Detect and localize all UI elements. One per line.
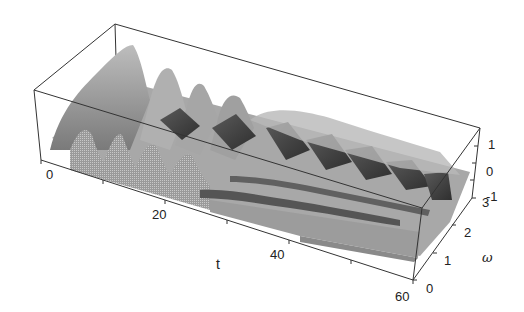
z-tick-1: 1 <box>488 138 495 151</box>
t-tick-40: 40 <box>270 248 284 261</box>
omega-tick-2: 2 <box>464 226 471 239</box>
omega-tick-0: 0 <box>426 282 433 295</box>
t-tick-0: 0 <box>46 168 53 181</box>
omega-tick-1: 1 <box>444 254 451 267</box>
omega-axis-label: ω <box>482 250 493 265</box>
z-axis-ticks <box>470 146 478 180</box>
t-tick-60: 60 <box>395 290 409 303</box>
z-tick-0: 0 <box>486 165 493 178</box>
z-tick-neg1: -1 <box>486 190 498 203</box>
surface <box>50 45 470 262</box>
t-tick-20: 20 <box>152 208 166 221</box>
t-axis-label: t <box>216 256 220 272</box>
